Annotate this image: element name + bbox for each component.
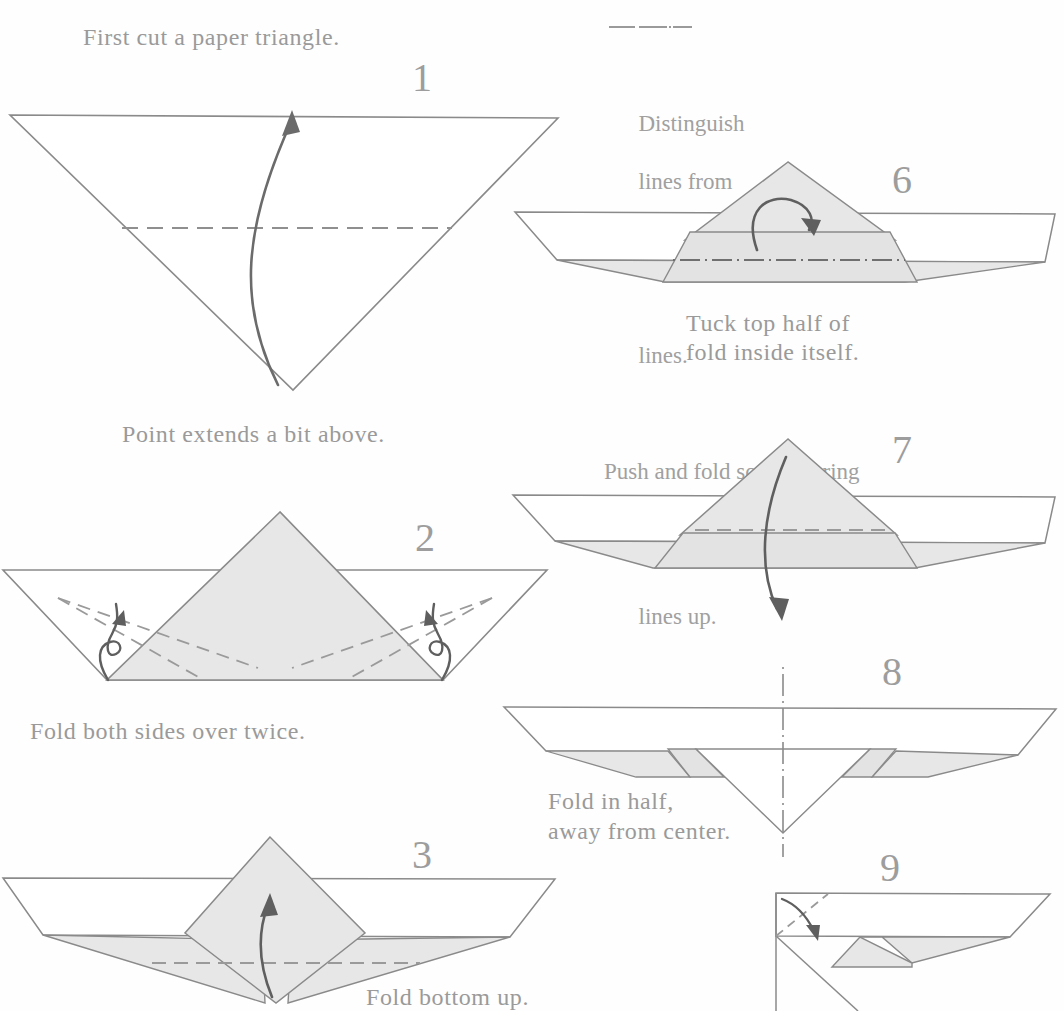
caption-point-extends: Point extends a bit above. <box>122 419 385 449</box>
fold-down-arrow-head <box>769 597 789 621</box>
caption-fold-half-line-1: Fold in half, <box>548 786 674 816</box>
center-band <box>663 232 917 282</box>
caption-tuck-line-1: Tuck top half of <box>686 308 850 338</box>
figure-step-9 <box>740 885 1064 1011</box>
caption-fold-half-line-2: away from center. <box>548 816 731 846</box>
left-strip-shade-a <box>546 751 690 777</box>
triangle-outline <box>10 115 558 390</box>
right-strip-shade-a <box>872 751 1018 777</box>
figure-step-2 <box>0 500 560 700</box>
legend-text-lines: lines. <box>639 343 688 368</box>
caption-fold-both-sides: Fold both sides over twice. <box>30 716 306 746</box>
figure-step-1 <box>0 90 580 410</box>
center-band <box>655 533 917 568</box>
caption-tuck-line-2: fold inside itself. <box>686 337 859 367</box>
caption-first-cut: First cut a paper triangle. <box>83 22 340 52</box>
legend-text-distinguish: Distinguish <box>639 111 745 136</box>
boat-upper-body <box>504 707 1056 755</box>
figure-step-6 <box>505 150 1064 285</box>
origami-instruction-sheet: First cut a paper triangle. 1 Distinguis… <box>0 0 1064 1011</box>
step-number-9: 9 <box>880 848 900 888</box>
figure-step-7 <box>505 425 1064 635</box>
caption-fold-bottom-up: Fold bottom up. <box>366 982 529 1011</box>
lower-diagonal-edge <box>776 936 858 1011</box>
center-triangle <box>680 439 897 535</box>
dash-dot-symbol-2 <box>608 22 694 32</box>
